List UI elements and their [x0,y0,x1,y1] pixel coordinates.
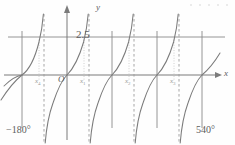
root-label-x4-sub: 4 [38,81,41,86]
tangent-curve [1,14,220,143]
root-label-x1: x1 [80,77,86,86]
horizontal-value-label: 2.5 [76,28,90,40]
scan-artifact-specks [190,4,232,9]
origin-label: O [58,74,65,84]
graph-figure: y x O 2.5 −180° 540° x4 x1 x2 x3 [0,0,235,145]
y-axis-label: y [96,2,100,12]
root-label-x2: x2 [125,77,131,86]
root-label-x2-sub: 2 [128,81,131,86]
left-bound-label: −180° [6,124,31,135]
root-label-x3: x3 [170,77,176,86]
x-axis-label: x [224,68,228,78]
right-bound-label: 540° [196,124,215,135]
root-label-x1-sub: 1 [83,81,86,86]
root-label-x3-sub: 3 [173,81,176,86]
root-label-x4: x4 [35,77,41,86]
